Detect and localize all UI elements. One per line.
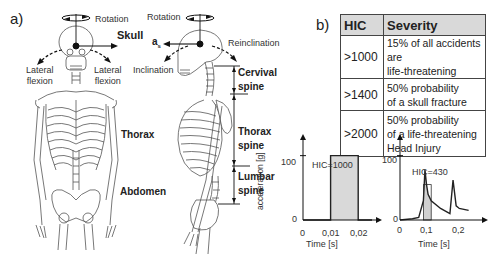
chart2-xtick-02: 0,2 [452, 225, 465, 235]
chart2-xtick-0: 0 [397, 225, 402, 235]
chart1-y-axis-arrow [300, 134, 306, 140]
chart1-ytick-100: 100 [281, 157, 296, 167]
chart1-ylabel: acceleration [g] [255, 152, 265, 210]
hic-charts [0, 0, 493, 254]
chart2-xtick-01: 0,1 [420, 225, 433, 235]
chart1-x-axis-arrow [376, 217, 382, 223]
chart2-ytick-100: 100 [382, 155, 397, 165]
chart1-xtick-002: 0,02 [350, 228, 368, 238]
chart2-xlabel: Time [s] [418, 239, 450, 249]
chart2-series-line [400, 170, 469, 220]
chart1-xlabel: Time [s] [306, 239, 338, 249]
charts-container [0, 0, 493, 254]
chart2-y-axis-arrow [397, 134, 403, 140]
chart2-title: HIC=430 [412, 167, 448, 177]
chart1-ytick-0: 0 [292, 214, 297, 224]
chart1-xtick-0: 0 [300, 228, 305, 238]
chart2-ytick-0: 0 [393, 214, 398, 224]
chart2-x-axis-arrow [482, 217, 488, 223]
chart1-title: HIC=1000 [312, 160, 353, 170]
chart1-xtick-001: 0,01 [322, 228, 340, 238]
